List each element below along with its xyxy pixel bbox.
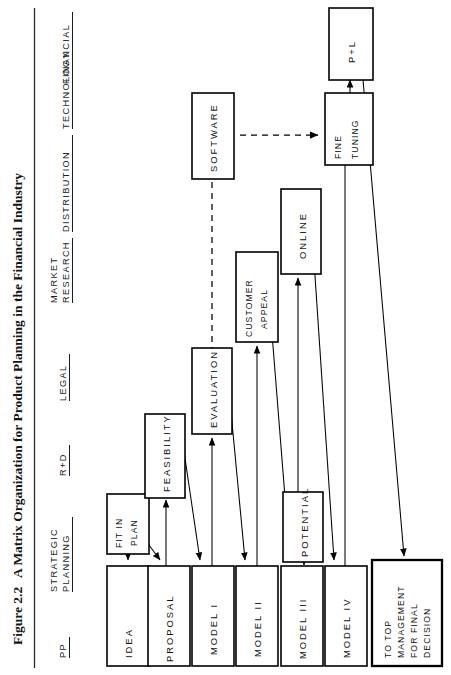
column-header-distribution: DISTRIBUTION — [61, 135, 73, 232]
node-proposal[interactable]: PROPOSAL — [148, 566, 190, 666]
column-header-pp: PP — [58, 637, 70, 658]
node-fine-tuning-line-0: FINE — [333, 135, 343, 159]
node-model-4[interactable]: MODEL IV — [325, 566, 367, 666]
figure-number: Figure 2.2 — [10, 587, 25, 645]
node-potential-label: POTENTIAL — [299, 487, 310, 557]
column-header-market-research-line-0: MARKET — [49, 257, 59, 303]
node-model-2[interactable]: MODEL II — [236, 566, 278, 666]
node-model-4-label: MODEL IV — [341, 598, 352, 658]
column-headers: PP STRATEGIC PLANNING R+D LEGAL MARKET R… — [49, 12, 73, 658]
node-to-top-management-line-2: FOR FINAL — [409, 603, 419, 658]
column-header-strategic-planning-line-1: PLANNING — [61, 534, 71, 592]
node-to-top-management-line-1: MANAGEMENT — [396, 585, 406, 658]
node-customer-appeal-line-1: APPEAL — [259, 289, 269, 329]
node-to-top-management-line-3: DECISION — [422, 608, 432, 658]
column-header-financial-draw: FINANCIAL — [61, 12, 73, 84]
node-fit-in-plan[interactable]: FIT IN PLAN — [107, 494, 149, 554]
node-idea-label: IDEA — [123, 628, 134, 658]
node-fine-tuning-line-1: TUNING — [350, 119, 360, 159]
node-model-3-label: MODEL III — [297, 598, 308, 659]
node-proposal-label: PROPOSAL — [164, 594, 175, 662]
node-customer-appeal[interactable]: CUSTOMER APPEAL — [236, 252, 278, 342]
node-fit-in-plan-line-0: FIT IN — [114, 518, 124, 548]
node-idea[interactable]: IDEA — [107, 566, 149, 666]
node-fine-tuning[interactable]: FINE TUNING — [325, 93, 373, 165]
node-feasibility[interactable]: FEASIBILITY — [145, 414, 185, 498]
figure-canvas: Figure 2.2 A Matrix Organization for Pro… — [0, 0, 451, 675]
node-online[interactable]: ONLINE — [281, 189, 321, 274]
column-header-distribution-line-0: DISTRIBUTION — [61, 151, 71, 232]
column-header-legal-line-0: LEGAL — [58, 365, 68, 401]
node-to-top-management-line-0: TO TOP — [383, 620, 393, 658]
column-header-rd: R+D — [58, 445, 70, 476]
node-p-and-l-label: P+L — [346, 40, 357, 63]
node-p-and-l[interactable]: P+L — [329, 8, 373, 80]
node-fit-in-plan-line-1: PLAN — [129, 519, 139, 546]
node-to-top-management[interactable]: TO TOP MANAGEMENT FOR FINAL DECISION — [372, 560, 442, 666]
node-software-label: SOFTWARE — [208, 103, 219, 172]
column-header-financial-label: FINANCIAL — [61, 24, 71, 84]
node-software[interactable]: SOFTWARE — [192, 93, 234, 179]
column-header-rd-line-0: R+D — [58, 453, 68, 476]
node-potential[interactable]: POTENTIAL — [283, 487, 323, 562]
node-model-1-label: MODEL I — [208, 603, 219, 655]
node-model-3[interactable]: MODEL III — [281, 566, 323, 666]
node-feasibility-label: FEASIBILITY — [161, 414, 172, 492]
figure-heading: Figure 2.2 A Matrix Organization for Pro… — [10, 173, 25, 645]
node-customer-appeal-line-0: CUSTOMER — [244, 279, 254, 337]
matrix-organization-diagram: Figure 2.2 A Matrix Organization for Pro… — [0, 0, 451, 675]
node-model-1[interactable]: MODEL I — [192, 566, 234, 666]
column-header-strategic-planning: STRATEGIC PLANNING — [49, 517, 73, 592]
node-evaluation-label: EVALUATION — [208, 350, 219, 428]
page-title: A Matrix Organization for Product Planni… — [10, 173, 25, 578]
column-header-pp-line-0: PP — [58, 643, 68, 658]
column-header-market-research-line-1: RESEARCH — [61, 241, 71, 303]
node-evaluation[interactable]: EVALUATION — [192, 348, 232, 434]
column-header-market-research: MARKET RESEARCH — [49, 238, 73, 303]
node-model-2-label: MODEL II — [252, 600, 263, 657]
column-header-strategic-planning-line-0: STRATEGIC — [49, 528, 59, 592]
column-header-legal: LEGAL — [58, 354, 70, 401]
node-online-label: ONLINE — [297, 212, 308, 259]
